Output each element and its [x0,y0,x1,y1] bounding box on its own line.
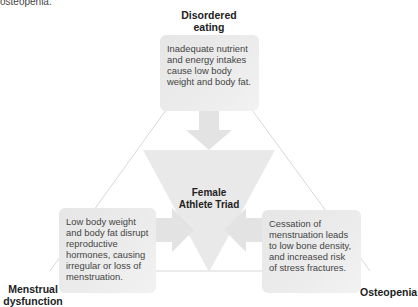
node-label-osteopenia: Osteopenia [360,286,418,298]
label-line: eating [160,21,258,33]
node-description: Inadequate nutrient and energy intakes c… [167,43,251,87]
node-box-disordered-eating: Inadequate nutrient and energy intakes c… [160,35,259,111]
node-description: Cessation of menstruation leads to low b… [269,218,351,273]
center-triangle-shape [143,150,275,272]
center-label-line: Athlete Triad [159,199,259,211]
label-line: Menstrual [0,283,66,295]
node-label-menstrual-dysfunction: Menstrual dysfunction [0,283,66,307]
center-label-line: Female [159,187,259,199]
node-label-disordered-eating: Disordered eating [160,9,258,33]
down-arrow-shape [186,110,232,150]
label-line: dysfunction [0,295,66,307]
label-line: Disordered [160,9,258,21]
center-label: Female Athlete Triad [159,187,259,211]
node-box-osteopenia: Cessation of menstruation leads to low b… [262,210,361,293]
node-box-menstrual-dysfunction: Low body weight and body fat disrupt rep… [59,208,156,293]
label-line: Osteopenia [360,286,418,298]
node-description: Low body weight and body fat disrupt rep… [66,216,148,282]
